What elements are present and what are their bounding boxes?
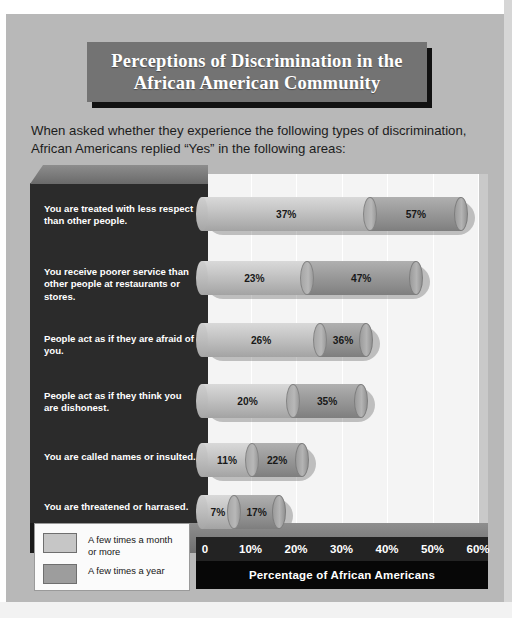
page-edge-right	[504, 0, 512, 618]
bar-segment-b[interactable]: 22%	[252, 443, 302, 477]
title-banner: Perceptions of Discrimination in the Afr…	[87, 42, 427, 102]
bar-row[interactable]: 23%47%	[202, 261, 430, 295]
bar-segment-b[interactable]: 17%	[234, 495, 280, 529]
bar-row[interactable]: 7%17%	[202, 495, 293, 529]
bar-value-label-total: 47%	[307, 261, 416, 295]
bar-segment-a[interactable]: 23%	[202, 261, 307, 295]
legend: A few times a month or moreA few times a…	[34, 523, 190, 591]
category-label-1: You receive poorer service than other pe…	[44, 266, 196, 303]
bar-segment-a[interactable]: 20%	[202, 384, 293, 418]
x-tick-20pct: 20%	[284, 537, 307, 561]
legend-swatch	[43, 533, 77, 553]
chart-area: You are treated with less respect than o…	[30, 165, 488, 585]
page-edge-top	[0, 0, 512, 14]
bar-segment-b[interactable]: 36%	[320, 323, 366, 357]
bar-value-label-a: 23%	[202, 261, 307, 295]
chart-subtitle: When asked whether they experience the f…	[31, 122, 481, 158]
bar-value-label-total: 36%	[320, 323, 366, 357]
category-panel-bevel	[30, 165, 208, 184]
bar-row[interactable]: 20%35%	[202, 384, 375, 418]
category-label-list: You are treated with less respect than o…	[30, 183, 208, 527]
bar-value-label-a: 20%	[202, 384, 293, 418]
category-label-4: You are called names or insulted.	[44, 451, 196, 463]
bar-segment-b[interactable]: 35%	[293, 384, 361, 418]
x-axis-label: Percentage of African Americans	[249, 569, 435, 581]
legend-item[interactable]: A few times a month or more	[43, 533, 172, 557]
bar-row[interactable]: 11%22%	[202, 443, 316, 477]
x-tick-30pct: 30%	[330, 537, 353, 561]
x-tick-10pct: 10%	[239, 537, 262, 561]
bar-value-label-a: 37%	[202, 197, 370, 231]
x-axis-caption-bar: Percentage of African Americans	[196, 561, 488, 589]
page-edge-left	[0, 0, 6, 618]
gridline-60	[478, 174, 479, 527]
bar-row[interactable]: 37%57%	[202, 197, 475, 231]
x-tick-40pct: 40%	[375, 537, 398, 561]
legend-label: A few times a month or more	[88, 533, 172, 557]
bar-segment-b[interactable]: 57%	[370, 197, 461, 231]
x-tick-0: 0	[202, 537, 208, 561]
bar-value-label-total: 35%	[293, 384, 361, 418]
category-label-5: You are threatened or harrased.	[44, 501, 196, 513]
bar-row[interactable]: 26%36%	[202, 323, 380, 357]
bar-value-label-total: 57%	[370, 197, 461, 231]
x-tick-50pct: 50%	[421, 537, 444, 561]
page-title: Perceptions of Discrimination in the Afr…	[111, 50, 403, 94]
category-label-2: People act as if they are afraid of you.	[44, 333, 196, 358]
bar-segment-a[interactable]: 37%	[202, 197, 370, 231]
bar-value-label-total: 17%	[234, 495, 280, 529]
bar-segment-a[interactable]: 26%	[202, 323, 320, 357]
legend-label: A few times a year	[88, 564, 165, 577]
bar-segment-b[interactable]: 47%	[307, 261, 416, 295]
chart-page: Perceptions of Discrimination in the Afr…	[0, 0, 512, 618]
plot-right-shading	[479, 174, 488, 527]
legend-swatch	[43, 564, 77, 584]
page-edge-bottom	[0, 602, 512, 618]
x-tick-60pct: 60%	[466, 537, 489, 561]
bar-value-label-total: 22%	[252, 443, 302, 477]
category-label-0: You are treated with less respect than o…	[44, 203, 196, 228]
legend-item[interactable]: A few times a year	[43, 564, 165, 584]
bar-value-label-a: 26%	[202, 323, 320, 357]
category-label-3: People act as if they think you are dish…	[44, 390, 196, 415]
